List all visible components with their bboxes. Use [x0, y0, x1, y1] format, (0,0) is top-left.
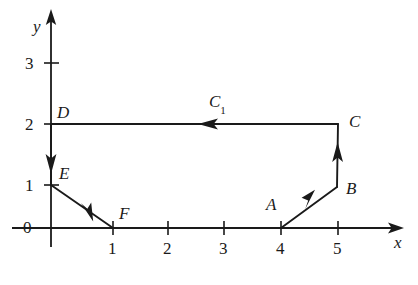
axes-group	[12, 9, 404, 247]
contour-group	[46, 119, 343, 228]
segment-e-to-f	[51, 185, 113, 228]
x-tick-label-2: 2	[163, 240, 172, 257]
y-tick-label-2: 2	[25, 116, 34, 133]
point-label-A: A	[266, 196, 276, 213]
x-axis-label: x	[394, 234, 402, 251]
origin-tick-label: 0	[23, 219, 32, 236]
x-tick-label-3: 3	[219, 240, 228, 257]
curve-label-c1-subscript: 1	[220, 104, 226, 116]
segment-a-to-b	[281, 187, 337, 228]
diagram-canvas	[0, 0, 418, 285]
y-axis-label: y	[33, 18, 41, 35]
x-tick-label-4: 4	[276, 240, 285, 257]
x-tick-label-5: 5	[333, 240, 342, 257]
math-diagram: A B C D E F C1 y x 0 1 2 3 4 5 1 2 3	[0, 0, 418, 285]
point-label-D: D	[57, 104, 69, 121]
point-label-B: B	[346, 180, 356, 197]
point-label-F: F	[119, 205, 129, 222]
point-label-E: E	[59, 165, 69, 182]
curve-label-c1-base: C	[209, 92, 220, 111]
point-label-C: C	[349, 113, 360, 130]
y-tick-label-1: 1	[25, 177, 34, 194]
curve-label-c1: C1	[209, 93, 226, 113]
y-tick-label-3: 3	[25, 55, 34, 72]
x-tick-label-1: 1	[108, 240, 117, 257]
